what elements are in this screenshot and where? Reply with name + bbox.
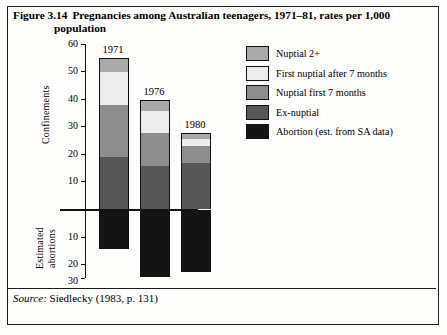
legend-swatch-icon-ex-nuptial (246, 105, 269, 120)
figure-title: Figure 3.14Pregnancies among Australian … (13, 8, 413, 22)
y-ticklabel-10: 10 (56, 175, 78, 186)
bar-1971-ex-nuptial (99, 157, 129, 209)
axis-group-confinements: Confinements (40, 60, 53, 170)
legend-label-ex-nuptial: Ex-nuptial (276, 107, 319, 118)
axis-group-estimated-abortions: Estimatedabortions (34, 214, 60, 282)
y-tick-minus10 (81, 237, 85, 238)
bar-1976-abortion (140, 210, 170, 277)
y-tick-60 (81, 44, 85, 45)
y-axis-line (85, 44, 86, 278)
legend-label-abortion: Abortion (est. from SA data) (276, 126, 393, 137)
bar-1971-nuptial-first-7-months (99, 105, 129, 157)
source-text: Siedlecky (1983, p. 131) (50, 292, 158, 304)
bar-1971-nuptial-2plus (99, 58, 129, 73)
legend-item-ex-nuptial: Ex-nuptial (246, 105, 422, 120)
y-tick-30 (81, 126, 85, 127)
bar-1971-abortion (99, 210, 129, 249)
y-ticklabel-60: 60 (56, 38, 78, 49)
figure-number: Figure 3.14 (13, 9, 67, 21)
legend-item-nuptial-first-7-months: Nuptial first 7 months (246, 85, 422, 100)
legend-item-nuptial-2plus: Nuptial 2+ (246, 46, 422, 61)
bar-1971-first-nuptial-after-7-months (99, 72, 129, 105)
source-divider (8, 288, 436, 289)
bar-1980-ex-nuptial (181, 163, 211, 209)
legend-label-nuptial-2plus: Nuptial 2+ (276, 48, 320, 59)
bar-label-1971: 1971 (93, 44, 133, 55)
legend-label-first-nuptial-after-7-months: First nuptial after 7 months (276, 68, 387, 79)
y-tick-minus30 (81, 278, 85, 279)
legend: Nuptial 2+ First nuptial after 7 months … (246, 46, 422, 144)
y-ticklabel-20: 20 (56, 148, 78, 159)
y-tick-40 (81, 99, 85, 100)
bar-1980-nuptial-first-7-months (181, 146, 211, 163)
bar-1980-first-nuptial-after-7-months (181, 139, 211, 146)
source-line: Source: Siedlecky (1983, p. 131) (13, 292, 158, 304)
legend-item-first-nuptial-after-7-months: First nuptial after 7 months (246, 66, 422, 81)
legend-label-nuptial-first-7-months: Nuptial first 7 months (276, 87, 366, 98)
y-ticklabel-30: 30 (56, 120, 78, 131)
figure-title-line2: population (54, 22, 106, 34)
figure-title-line1: Pregnancies among Australian teenagers, … (72, 9, 390, 21)
bar-1976-first-nuptial-after-7-months (140, 111, 170, 133)
bar-1976-ex-nuptial (140, 166, 170, 209)
bar-label-1980: 1980 (175, 119, 215, 130)
y-ticklabel-40: 40 (56, 93, 78, 104)
legend-swatch-icon-abortion (246, 124, 269, 139)
y-ticklabel-50: 50 (56, 65, 78, 76)
bar-1980-abortion (181, 210, 211, 272)
y-tick-50 (81, 71, 85, 72)
legend-item-abortion: Abortion (est. from SA data) (246, 124, 422, 139)
bar-1976-nuptial-first-7-months (140, 133, 170, 166)
legend-swatch-icon-nuptial-first-7-months (246, 85, 269, 100)
source-prefix: Source: (13, 292, 47, 304)
figure-page: Figure 3.14Pregnancies among Australian … (0, 0, 447, 335)
bar-label-1976: 1976 (134, 86, 174, 97)
zero-baseline (60, 209, 198, 211)
legend-swatch-icon-nuptial-2plus (246, 46, 269, 61)
y-tick-minus20 (81, 264, 85, 265)
y-tick-10 (81, 181, 85, 182)
y-tick-20 (81, 154, 85, 155)
legend-swatch-icon-first-nuptial-after-7-months (246, 66, 269, 81)
